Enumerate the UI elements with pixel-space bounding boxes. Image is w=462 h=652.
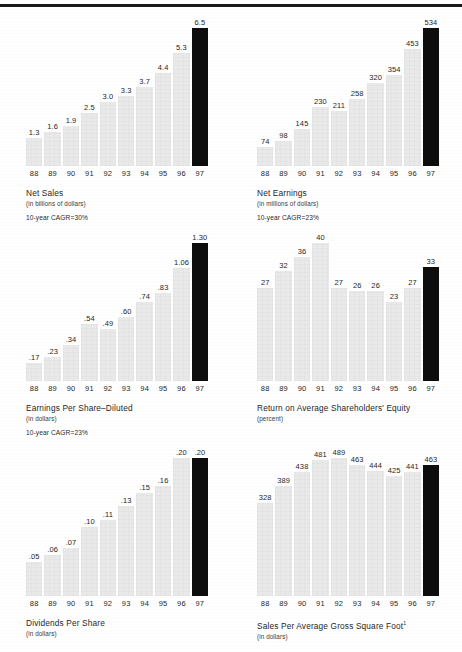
bar-column-95[interactable]: 23 — [386, 233, 402, 381]
bar-column-88[interactable]: 328 — [257, 448, 273, 596]
bar-column-92[interactable]: .11 — [100, 448, 116, 596]
bar[interactable] — [136, 87, 152, 166]
bar[interactable] — [118, 96, 134, 166]
bar-column-94[interactable]: 320 — [367, 18, 383, 166]
bar-column-91[interactable]: 2.5 — [81, 18, 97, 166]
bar[interactable] — [118, 317, 134, 381]
bar-column-96[interactable]: 5.3 — [173, 18, 189, 166]
bar[interactable] — [331, 288, 347, 381]
bar-column-95[interactable]: .16 — [155, 448, 171, 596]
bar[interactable] — [312, 243, 328, 381]
bar-column-88[interactable]: 1.3 — [26, 18, 42, 166]
bar-column-96[interactable]: 441 — [404, 448, 420, 596]
bar[interactable] — [173, 268, 189, 381]
bar-column-91[interactable]: .10 — [81, 448, 97, 596]
bar[interactable] — [81, 527, 97, 596]
bar[interactable] — [367, 291, 383, 381]
bar[interactable] — [257, 503, 273, 596]
bar[interactable] — [294, 129, 310, 166]
bar-column-90[interactable]: 438 — [294, 448, 310, 596]
bar[interactable] — [331, 458, 347, 596]
bar[interactable] — [44, 555, 60, 596]
bar-column-90[interactable]: .07 — [63, 448, 79, 596]
bar[interactable] — [423, 465, 439, 596]
bar[interactable] — [275, 271, 291, 381]
bar-column-93[interactable]: .60 — [118, 233, 134, 381]
bar-column-91[interactable]: 40 — [312, 233, 328, 381]
bar-column-96[interactable]: 1.06 — [173, 233, 189, 381]
bar-column-96[interactable]: 27 — [404, 233, 420, 381]
bar-column-92[interactable]: .49 — [100, 233, 116, 381]
bar-column-95[interactable]: 354 — [386, 18, 402, 166]
bar-column-97[interactable]: 33 — [423, 233, 439, 381]
bar[interactable] — [63, 345, 79, 381]
bar[interactable] — [81, 113, 97, 166]
bar[interactable] — [294, 257, 310, 381]
bar-column-90[interactable]: 145 — [294, 18, 310, 166]
bar-column-92[interactable]: 3.0 — [100, 18, 116, 166]
bar[interactable] — [386, 476, 402, 596]
bar[interactable] — [173, 53, 189, 166]
bar-column-89[interactable]: .06 — [44, 448, 60, 596]
bar-column-88[interactable]: .17 — [26, 233, 42, 381]
bar-column-94[interactable]: 444 — [367, 448, 383, 596]
bar-column-88[interactable]: .05 — [26, 448, 42, 596]
bar[interactable] — [257, 288, 273, 381]
bar-column-93[interactable]: 463 — [349, 448, 365, 596]
bar-column-97[interactable]: 534 — [423, 18, 439, 166]
bar-column-96[interactable]: .20 — [173, 448, 189, 596]
bar[interactable] — [349, 291, 365, 381]
bar-column-88[interactable]: 74 — [257, 18, 273, 166]
bar[interactable] — [100, 520, 116, 596]
bar-column-94[interactable]: 3.7 — [136, 18, 152, 166]
bar[interactable] — [26, 138, 42, 166]
bar-column-93[interactable]: 26 — [349, 233, 365, 381]
bar[interactable] — [26, 363, 42, 381]
bar-column-95[interactable]: .83 — [155, 233, 171, 381]
bar[interactable] — [312, 460, 328, 596]
bar[interactable] — [275, 486, 291, 596]
bar[interactable] — [257, 147, 273, 166]
bar-column-94[interactable]: 26 — [367, 233, 383, 381]
bar-column-89[interactable]: .23 — [44, 233, 60, 381]
bar[interactable] — [192, 243, 208, 381]
bar-column-89[interactable]: 1.6 — [44, 18, 60, 166]
bar[interactable] — [404, 472, 420, 596]
bar[interactable] — [155, 73, 171, 166]
bar[interactable] — [192, 458, 208, 596]
bar-column-93[interactable]: 3.3 — [118, 18, 134, 166]
bar-column-89[interactable]: 98 — [275, 18, 291, 166]
bar[interactable] — [404, 288, 420, 381]
bar[interactable] — [118, 506, 134, 596]
bar-column-92[interactable]: 211 — [331, 18, 347, 166]
bar-column-97[interactable]: 1.30 — [192, 233, 208, 381]
bar-column-97[interactable]: .20 — [192, 448, 208, 596]
bar[interactable] — [173, 458, 189, 596]
bar[interactable] — [26, 562, 42, 597]
bar[interactable] — [81, 324, 97, 381]
bar-column-95[interactable]: 4.4 — [155, 18, 171, 166]
bar[interactable] — [136, 302, 152, 381]
bar[interactable] — [386, 75, 402, 166]
bar[interactable] — [349, 465, 365, 596]
bar-column-97[interactable]: 463 — [423, 448, 439, 596]
bar-column-96[interactable]: 453 — [404, 18, 420, 166]
bar-column-93[interactable]: 258 — [349, 18, 365, 166]
bar-column-94[interactable]: .15 — [136, 448, 152, 596]
bar[interactable] — [367, 83, 383, 166]
bar-column-92[interactable]: 489 — [331, 448, 347, 596]
bar-column-90[interactable]: .34 — [63, 233, 79, 381]
bar-column-89[interactable]: 32 — [275, 233, 291, 381]
bar-column-94[interactable]: .74 — [136, 233, 152, 381]
bar-column-91[interactable]: 481 — [312, 448, 328, 596]
bar-column-97[interactable]: 6.5 — [192, 18, 208, 166]
bar[interactable] — [63, 126, 79, 166]
bar[interactable] — [155, 293, 171, 381]
bar-column-89[interactable]: 389 — [275, 448, 291, 596]
bar[interactable] — [275, 141, 291, 166]
bar[interactable] — [44, 132, 60, 166]
bar-column-95[interactable]: 425 — [386, 448, 402, 596]
bar-column-90[interactable]: 1.9 — [63, 18, 79, 166]
bar[interactable] — [423, 28, 439, 166]
bar[interactable] — [136, 493, 152, 597]
